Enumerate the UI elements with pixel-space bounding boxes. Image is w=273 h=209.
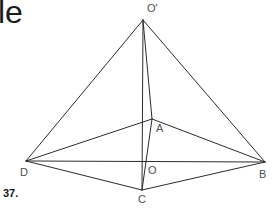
edge-Oprime-D bbox=[26, 20, 143, 161]
vertex-label-B: B bbox=[259, 168, 266, 180]
vertex-label-A: A bbox=[156, 122, 163, 134]
edge-Oprime-A bbox=[143, 20, 152, 119]
edge-D-A bbox=[26, 119, 152, 161]
edge-Oprime-C bbox=[142, 20, 143, 190]
edge-group bbox=[26, 20, 265, 190]
figure-page: le 37. O'ABCDO bbox=[0, 0, 273, 209]
vertex-label-O: O bbox=[148, 164, 157, 176]
vertex-label-D: D bbox=[20, 166, 28, 178]
vertex-label-C: C bbox=[138, 193, 146, 205]
edge-C-B bbox=[142, 162, 265, 190]
geometry-figure bbox=[0, 0, 273, 209]
exercise-number: 37. bbox=[3, 187, 18, 199]
edge-D-C bbox=[26, 161, 142, 190]
edge-A-C bbox=[142, 119, 152, 190]
edge-A-B bbox=[152, 119, 265, 162]
edge-Oprime-B bbox=[143, 20, 265, 162]
vertex-label-Oprime: O' bbox=[147, 2, 158, 14]
